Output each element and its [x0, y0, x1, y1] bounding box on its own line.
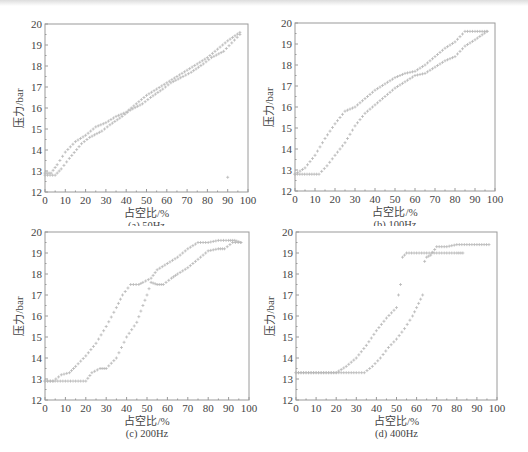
- x-tick-label: 60: [411, 402, 423, 414]
- y-tick-label: 14: [282, 352, 294, 364]
- plot-frame: [296, 232, 497, 400]
- x-tick-label: 0: [293, 402, 299, 414]
- chart-3-series-upper: [295, 252, 465, 375]
- x-tick-label: 40: [371, 402, 383, 414]
- y-tick-label: 13: [282, 373, 294, 385]
- y-axis-title: 压力/bar: [264, 296, 276, 335]
- y-tick-label: 18: [282, 268, 294, 280]
- y-tick-label: 20: [282, 226, 294, 238]
- x-tick-label: 10: [311, 402, 323, 414]
- x-tick-label: 90: [471, 402, 483, 414]
- chart-d-svg: 0102030405060708090100121314151617181920…: [0, 0, 528, 452]
- y-tick-label: 16: [282, 310, 294, 322]
- x-tick-label: 80: [451, 402, 463, 414]
- chart-caption: (d) 400Hz: [375, 428, 418, 440]
- chart-panel-d: 0102030405060708090100121314151617181920…: [0, 0, 528, 452]
- y-tick-label: 12: [282, 394, 293, 406]
- chart-3-series-lower: [295, 243, 491, 374]
- x-tick-label: 70: [431, 402, 443, 414]
- y-tick-label: 19: [282, 247, 294, 259]
- x-tick-label: 30: [351, 402, 363, 414]
- x-tick-label: 20: [331, 402, 343, 414]
- x-tick-label: 100: [489, 402, 506, 414]
- y-tick-label: 15: [282, 331, 294, 343]
- y-tick-label: 17: [282, 289, 294, 301]
- x-axis-title: 占空比/%: [374, 414, 419, 427]
- x-tick-label: 50: [391, 402, 403, 414]
